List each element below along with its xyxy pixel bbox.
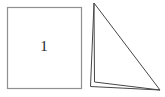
figure-container: 1: [0, 0, 165, 97]
geometry-diagram: 1: [0, 0, 165, 97]
folded-triangle-outline: [91, 3, 161, 90]
square-label: 1: [40, 38, 48, 54]
